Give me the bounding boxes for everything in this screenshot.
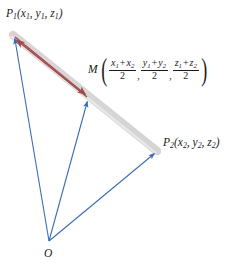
label-p1: P1(x1, y1, z1) bbox=[6, 8, 63, 21]
fraction-z-denominator: 2 bbox=[183, 71, 188, 82]
label-p1-sep-1: , bbox=[30, 7, 33, 19]
midpoint-vector-diagram: P1(x1, y1, z1) P2(x2, y2, z2) O M( x1+x2… bbox=[0, 0, 242, 273]
label-p1-close-paren: ) bbox=[59, 7, 63, 19]
vector-o-to-p2 bbox=[49, 154, 155, 242]
label-origin: O bbox=[44, 248, 52, 260]
fraction-y-denominator: 2 bbox=[152, 71, 157, 82]
label-p2-sep-1: , bbox=[187, 136, 190, 148]
label-p2-point: P bbox=[163, 136, 170, 148]
label-m-close-paren: ) bbox=[201, 59, 207, 81]
label-m: M( x1+x2 2 , y1+y2 2 , z1+z2 2 bbox=[88, 58, 209, 82]
vector-m-to-p1 bbox=[15, 37, 87, 97]
label-p2-close-paren: ) bbox=[216, 136, 220, 148]
label-m-point: M bbox=[88, 64, 98, 76]
label-p2-sep-2: , bbox=[202, 136, 205, 148]
vector-o-to-p1 bbox=[15, 39, 49, 242]
fraction-x-numerator: x1+x2 bbox=[109, 58, 136, 70]
fraction-z-numerator: z1+z2 bbox=[173, 58, 199, 70]
fraction-z-num-op: + bbox=[182, 57, 190, 68]
label-m-fraction-y: y1+y2 2 bbox=[141, 58, 168, 82]
label-p1-point: P bbox=[6, 7, 13, 19]
fraction-x-denominator: 2 bbox=[120, 71, 125, 82]
label-m-expression: M( x1+x2 2 , y1+y2 2 , z1+z2 2 bbox=[88, 58, 209, 82]
label-m-fraction-z: z1+z2 2 bbox=[173, 58, 199, 82]
label-p1-sep-2: , bbox=[45, 7, 48, 19]
label-p2: P2(x2, y2, z2) bbox=[163, 137, 220, 150]
vector-o-to-m bbox=[49, 102, 87, 242]
label-m-open-paren: ( bbox=[101, 59, 107, 81]
label-m-fraction-x: x1+x2 2 bbox=[109, 58, 136, 82]
label-m-fraction-list: x1+x2 2 , y1+y2 2 , z1+z2 2 bbox=[109, 58, 199, 82]
fraction-y-numerator: y1+y2 bbox=[141, 58, 168, 70]
label-origin-text: O bbox=[44, 247, 52, 259]
